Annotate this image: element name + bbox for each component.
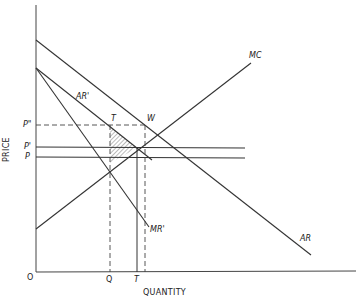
p-label: P — [25, 153, 30, 161]
t-quantity-label: T — [134, 276, 139, 284]
x-axis — [36, 271, 356, 272]
point-w-label: W — [147, 115, 155, 123]
ar-prime-curve — [36, 68, 152, 160]
p-double-prime-label: P" — [23, 121, 32, 129]
origin-label: O — [27, 274, 34, 282]
point-t-label: T — [111, 115, 116, 123]
y-axis-label: PRICE — [3, 137, 11, 162]
mc-curve — [36, 63, 251, 229]
p-line — [36, 157, 245, 158]
q-label: Q — [106, 276, 112, 284]
mr-prime-label: MR' — [150, 226, 165, 234]
mc-label: MC — [249, 52, 262, 60]
ar-label: AR — [300, 235, 311, 243]
x-axis-label: QUANTITY — [143, 289, 186, 297]
p-prime-line — [36, 147, 245, 148]
ar-prime-label: AR' — [76, 93, 89, 101]
p-prime-label: P' — [24, 143, 31, 151]
diagram-canvas — [0, 0, 358, 299]
